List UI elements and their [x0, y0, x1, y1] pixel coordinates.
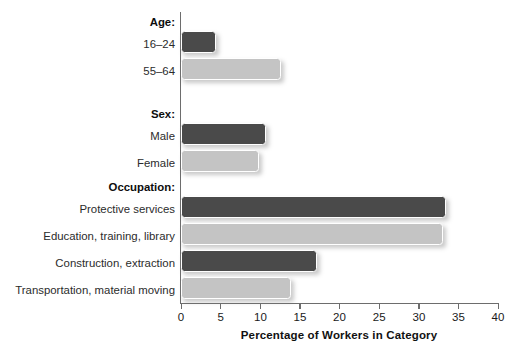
bar-education-training-library[interactable] — [181, 223, 443, 245]
category-label-male: Male — [150, 130, 175, 143]
x-tick-label-5: 5 — [201, 310, 241, 324]
bar-construction-extraction[interactable] — [181, 250, 317, 272]
bar-chart: 0 5 10 15 20 25 30 35 40 Percentage of W… — [0, 0, 520, 363]
bar-55-64[interactable] — [181, 58, 281, 80]
category-label-construction-extraction: Construction, extraction — [55, 257, 175, 270]
group-header-occupation: Occupation: — [109, 181, 175, 194]
group-header-age: Age: — [150, 16, 175, 29]
category-label-female: Female — [137, 157, 175, 170]
x-tick-15 — [299, 303, 300, 309]
x-tick-40 — [498, 303, 499, 309]
x-tick-35 — [458, 303, 459, 309]
x-tick-30 — [418, 303, 419, 309]
x-tick-5 — [220, 303, 221, 309]
x-tick-label-10: 10 — [240, 310, 280, 324]
x-axis-title: Percentage of Workers in Category — [180, 329, 498, 341]
x-tick-25 — [379, 303, 380, 309]
x-tick-label-35: 35 — [439, 310, 479, 324]
bar-male[interactable] — [181, 123, 266, 145]
category-label-education-training-library: Education, training, library — [43, 230, 175, 243]
bar-protective-services[interactable] — [181, 196, 446, 218]
x-tick-label-0: 0 — [161, 310, 201, 324]
bar-transportation-material-moving[interactable] — [181, 277, 291, 299]
x-tick-10 — [260, 303, 261, 309]
group-header-sex: Sex: — [151, 108, 175, 121]
category-label-16-24: 16–24 — [143, 38, 175, 51]
category-label-protective-services: Protective services — [79, 203, 175, 216]
category-label-transportation-material-moving: Transportation, material moving — [15, 284, 175, 297]
x-tick-0 — [181, 303, 182, 309]
x-tick-label-20: 20 — [320, 310, 360, 324]
x-tick-label-30: 30 — [399, 310, 439, 324]
x-tick-label-40: 40 — [478, 310, 518, 324]
x-tick-label-15: 15 — [280, 310, 320, 324]
bar-female[interactable] — [181, 150, 259, 172]
x-tick-20 — [339, 303, 340, 309]
category-label-55-64: 55–64 — [143, 65, 175, 78]
bar-16-24[interactable] — [181, 31, 216, 53]
x-tick-label-25: 25 — [359, 310, 399, 324]
